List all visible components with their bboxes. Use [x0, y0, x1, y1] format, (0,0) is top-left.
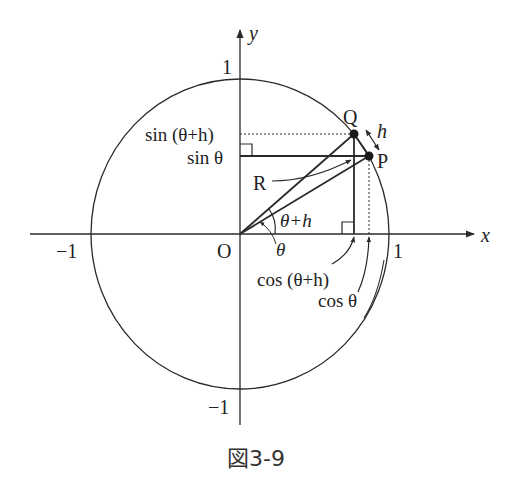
- right-angle-top: [240, 144, 252, 156]
- y-neg-tick: −1: [208, 396, 229, 418]
- cos-theta-h-leader: [332, 237, 354, 264]
- label-h: h: [377, 120, 387, 142]
- label-angle-theta-plus-h: θ+h: [280, 210, 312, 231]
- x-neg-tick: −1: [56, 240, 77, 262]
- origin-label: O: [217, 240, 231, 262]
- y-pos-tick: 1: [222, 56, 232, 78]
- cos-theta-leader-tail: [364, 260, 384, 318]
- label-sin-theta: sin θ: [187, 147, 223, 168]
- label-cos-theta: cos θ: [318, 290, 357, 311]
- label-Q: Q: [343, 106, 358, 128]
- point-P: [365, 152, 374, 161]
- label-angle-theta: θ: [276, 239, 285, 260]
- unit-circle-diagram: y x 1 −1 −1 1 O Q P R h sin (θ+h) sin θ …: [0, 0, 522, 497]
- figure-caption: 図3-9: [227, 446, 285, 471]
- point-Q: [350, 130, 359, 139]
- label-P: P: [377, 150, 388, 172]
- x-pos-tick: 1: [393, 240, 403, 262]
- label-cos-theta-plus-h: cos (θ+h): [257, 269, 329, 291]
- x-axis-label: x: [480, 224, 490, 246]
- cos-theta-leader: [358, 237, 369, 292]
- angle-arc-theta: [260, 222, 276, 244]
- right-angle-bottom: [342, 222, 354, 234]
- label-R: R: [253, 172, 267, 194]
- y-axis-label: y: [247, 22, 258, 45]
- label-sin-theta-plus-h: sin (θ+h): [145, 124, 214, 146]
